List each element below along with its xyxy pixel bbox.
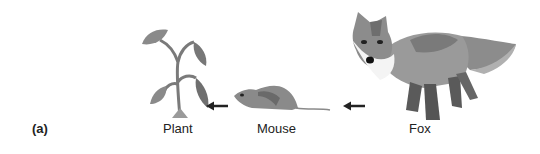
arrow-left-icon [206,101,228,111]
plant-icon [138,22,214,120]
mouse-icon [232,84,332,114]
fox-label: Fox [409,121,431,136]
fox-icon [352,10,518,122]
mouse-label: Mouse [257,121,296,136]
plant-label: Plant [163,121,193,136]
panel-label: (a) [32,121,48,136]
